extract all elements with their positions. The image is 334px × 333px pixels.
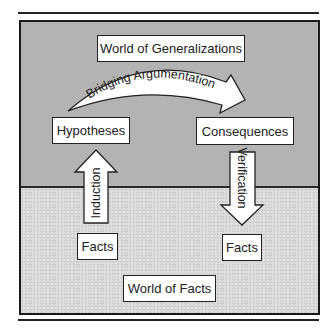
world-of-facts-box: World of Facts (123, 275, 216, 302)
induction-label: Induction (89, 163, 103, 223)
hypotheses-label: Hypotheses (57, 123, 126, 138)
world-of-facts-label: World of Facts (128, 281, 212, 296)
facts-right-box: Facts (222, 234, 262, 261)
consequences-box: Consequences (196, 117, 294, 145)
facts-right-label: Facts (226, 240, 258, 255)
hypotheses-box: Hypotheses (52, 117, 130, 144)
world-of-generalizations-box: World of Generalizations (97, 35, 245, 62)
world-of-generalizations-label: World of Generalizations (100, 41, 242, 56)
facts-left-box: Facts (77, 233, 118, 260)
facts-left-label: Facts (82, 239, 114, 254)
verification-label: Verification (235, 143, 249, 213)
consequences-label: Consequences (202, 124, 289, 139)
